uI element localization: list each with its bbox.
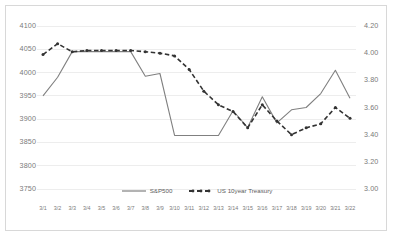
data-point-marker (173, 54, 176, 57)
data-point-marker (115, 49, 118, 52)
data-point-marker (261, 103, 264, 106)
x-axis-tick-label: 3/8 (142, 206, 150, 211)
x-axis-tick-label: 3/10 (169, 206, 180, 211)
gridlines (37, 26, 356, 189)
chart-plot-area (6, 6, 388, 232)
x-axis-tick-label: 3/4 (83, 206, 91, 211)
x-axis-tick-label: 3/15 (242, 206, 253, 211)
data-point-marker (100, 49, 103, 52)
right-axis-tick-label: 4.00 (364, 49, 394, 56)
data-point-marker (319, 122, 322, 125)
legend-label: S&P500 (150, 188, 173, 194)
x-axis-tick-label: 3/3 (68, 206, 76, 211)
chart-legend: S&P500US 10year Treasury (6, 188, 388, 194)
left-axis-tick-label: 3850 (6, 138, 36, 145)
legend-swatch-solid (122, 188, 146, 194)
x-axis-tick-label: 3/11 (184, 206, 194, 211)
x-axis-tick-label: 3/12 (199, 206, 210, 211)
data-point-marker (202, 90, 205, 93)
series-layer (42, 42, 352, 136)
x-axis-tick-label: 3/1 (39, 206, 47, 211)
data-point-marker (232, 110, 235, 113)
right-axis-tick-label: 3.40 (364, 131, 394, 138)
data-point-marker (85, 49, 88, 52)
data-point-marker (42, 53, 45, 56)
data-point-marker (217, 103, 220, 106)
right-axis-tick-label: 4.20 (364, 22, 394, 29)
series-line-s-p500 (43, 52, 350, 136)
x-axis-tick-label: 3/14 (228, 206, 239, 211)
x-axis-tick-label: 3/2 (54, 206, 62, 211)
legend-swatch-dashed (189, 188, 213, 194)
x-axis-tick-label: 3/16 (257, 206, 268, 211)
data-point-marker (158, 52, 161, 55)
data-point-marker (129, 49, 132, 52)
x-axis-tick-label: 3/13 (213, 206, 224, 211)
data-point-marker (290, 133, 293, 136)
x-axis-tick-label: 3/18 (286, 206, 297, 211)
data-point-marker (246, 126, 249, 129)
legend-label: US 10year Treasury (217, 188, 272, 194)
x-axis-tick-label: 3/6 (112, 206, 120, 211)
left-axis-tick-label: 4000 (6, 69, 36, 76)
data-point-marker (144, 50, 147, 53)
data-point-marker (56, 42, 59, 45)
legend-item[interactable]: US 10year Treasury (189, 188, 272, 194)
x-axis-tick-label: 3/19 (301, 206, 312, 211)
left-axis-tick-label: 4100 (6, 22, 36, 29)
x-axis-tick-label: 3/9 (156, 206, 164, 211)
x-axis-tick-label: 3/7 (127, 206, 135, 211)
data-point-marker (188, 68, 191, 71)
data-point-marker (305, 126, 308, 129)
right-axis-tick-label: 3.60 (364, 104, 394, 111)
right-axis-tick-label: 3.80 (364, 76, 394, 83)
x-axis-tick-label: 3/5 (98, 206, 106, 211)
left-axis-tick-label: 3800 (6, 162, 36, 169)
x-axis-tick-label: 3/22 (345, 206, 356, 211)
series-line-us-10year-treasury (43, 44, 350, 135)
data-point-marker (275, 120, 278, 123)
x-axis-tick-label: 3/20 (316, 206, 327, 211)
left-axis-tick-label: 3900 (6, 115, 36, 122)
chart-container: 41004050400039503900385038003750 4.204.0… (5, 5, 387, 231)
x-axis-tick-label: 3/21 (330, 206, 341, 211)
data-point-marker (334, 106, 337, 109)
left-axis-tick-label: 4050 (6, 45, 36, 52)
right-axis-tick-label: 3.20 (364, 158, 394, 165)
x-axis-tick-label: 3/17 (272, 206, 283, 211)
data-point-marker (71, 50, 74, 53)
data-point-marker (349, 117, 352, 120)
left-axis-tick-label: 3950 (6, 92, 36, 99)
legend-item[interactable]: S&P500 (122, 188, 173, 194)
